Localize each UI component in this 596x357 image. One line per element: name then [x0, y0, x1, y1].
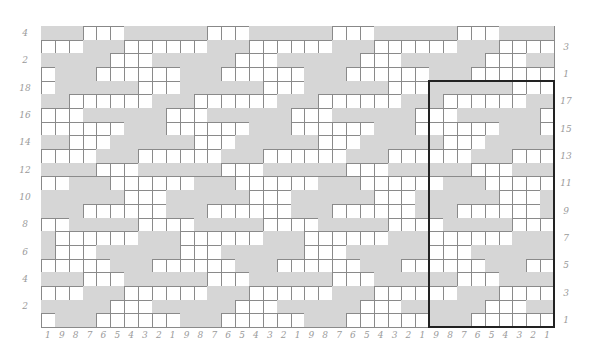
chart-cell: [401, 81, 416, 96]
chart-cell: [152, 81, 167, 96]
chart-cell: [152, 286, 167, 301]
chart-cell: [443, 286, 458, 301]
chart-cell: [55, 149, 70, 164]
chart-cell: [263, 81, 278, 96]
chart-cell: [360, 94, 375, 109]
row-label-left: 8: [15, 219, 35, 229]
chart-cell: [69, 149, 84, 164]
chart-cell: [360, 108, 375, 123]
row-label-left: 16: [15, 110, 35, 120]
chart-cell: [318, 245, 333, 260]
chart-cell: [360, 122, 375, 137]
chart-cell: [207, 135, 222, 150]
chart-cell: [471, 177, 486, 192]
chart-cell: [457, 245, 472, 260]
chart-cell: [291, 231, 306, 246]
chart-cell: [207, 272, 222, 287]
chart-cell: [332, 259, 347, 274]
chart-cell: [194, 245, 209, 260]
chart-cell: [457, 135, 472, 150]
chart-cell: [471, 204, 486, 219]
chart-cell: [540, 40, 555, 55]
chart-cell: [401, 272, 416, 287]
chart-cell: [540, 53, 555, 68]
chart-cell: [69, 122, 84, 137]
chart-cell: [96, 149, 111, 164]
chart-cell: [69, 300, 84, 315]
chart-cell: [166, 231, 181, 246]
chart-cell: [318, 108, 333, 123]
row-label-left: 4: [15, 28, 35, 38]
chart-cell: [83, 272, 98, 287]
chart-cell: [540, 81, 555, 96]
chart-cell: [221, 245, 236, 260]
chart-cell: [499, 272, 514, 287]
chart-cell: [110, 272, 125, 287]
chart-cell: [249, 135, 264, 150]
chart-cell: [235, 286, 250, 301]
chart-cell: [471, 313, 486, 328]
chart-cell: [415, 26, 430, 41]
chart-cell: [304, 26, 319, 41]
chart-cell: [207, 286, 222, 301]
chart-cell: [124, 190, 139, 205]
chart-cell: [429, 149, 444, 164]
chart-cell: [318, 122, 333, 137]
chart-cell: [152, 313, 167, 328]
chart-cell: [263, 272, 278, 287]
chart-cell: [471, 26, 486, 41]
chart-cell: [304, 53, 319, 68]
chart-cell: [526, 135, 541, 150]
chart-cell: [499, 40, 514, 55]
chart-cell: [443, 135, 458, 150]
chart-cell: [332, 108, 347, 123]
chart-cell: [249, 163, 264, 178]
chart-cell: [180, 259, 195, 274]
chart-cell: [83, 108, 98, 123]
chart-cell: [429, 286, 444, 301]
chart-cell: [263, 259, 278, 274]
chart-cell: [485, 231, 500, 246]
chart-cell: [526, 40, 541, 55]
chart-cell: [110, 245, 125, 260]
chart-cell: [374, 190, 389, 205]
chart-cell: [429, 67, 444, 82]
chart-cell: [263, 53, 278, 68]
chart-cell: [388, 26, 403, 41]
chart-cell: [83, 245, 98, 260]
chart-cell: [41, 108, 56, 123]
chart-cell: [526, 149, 541, 164]
chart-cell: [512, 259, 527, 274]
chart-cell: [41, 218, 56, 233]
chart-cell: [388, 272, 403, 287]
chart-cell: [138, 259, 153, 274]
chart-cell: [83, 149, 98, 164]
chart-cell: [96, 94, 111, 109]
chart-cell: [55, 177, 70, 192]
chart-cell: [401, 26, 416, 41]
chart-cell: [332, 163, 347, 178]
chart-cell: [83, 177, 98, 192]
chart-cell: [429, 53, 444, 68]
chart-cell: [249, 190, 264, 205]
chart-cell: [415, 259, 430, 274]
chart-cell: [41, 190, 56, 205]
chart-cell: [401, 94, 416, 109]
chart-cell: [194, 81, 209, 96]
chart-cell: [221, 177, 236, 192]
chart-cell: [69, 204, 84, 219]
chart-cell: [499, 313, 514, 328]
chart-cell: [471, 67, 486, 82]
chart-cell: [540, 135, 555, 150]
chart-cell: [318, 94, 333, 109]
chart-cell: [526, 190, 541, 205]
chart-cell: [388, 204, 403, 219]
chart-cell: [221, 108, 236, 123]
chart-cell: [124, 204, 139, 219]
chart-cell: [512, 231, 527, 246]
chart-cell: [401, 190, 416, 205]
chart-cell: [332, 313, 347, 328]
chart-cell: [41, 149, 56, 164]
chart-cell: [540, 272, 555, 287]
chart-cell: [207, 67, 222, 82]
